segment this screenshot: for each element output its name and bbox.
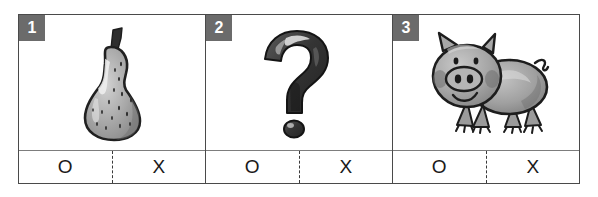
pear-illustration <box>19 15 205 150</box>
pig-illustration <box>393 15 579 150</box>
panel-2-answer-row: O X <box>206 150 392 183</box>
panel-1-option-circle[interactable]: O <box>19 151 112 183</box>
panel-3-option-cross[interactable]: X <box>486 151 580 183</box>
panel-1[interactable]: 1 <box>19 15 205 183</box>
panel-1-option-cross[interactable]: X <box>112 151 206 183</box>
panel-1-number-badge: 1 <box>19 15 45 41</box>
panel-2-figure-area: 2 <box>206 15 392 150</box>
panel-2[interactable]: 2 <box>205 15 392 183</box>
panel-3[interactable]: 3 <box>392 15 579 183</box>
panel-2-option-circle[interactable]: O <box>206 151 299 183</box>
panel-1-answer-row: O X <box>19 150 205 183</box>
panel-3-number-badge: 3 <box>393 15 419 41</box>
panel-2-number-badge: 2 <box>206 15 232 41</box>
panel-3-answer-row: O X <box>393 150 579 183</box>
panel-3-figure-area: 3 <box>393 15 579 150</box>
panel-2-option-cross[interactable]: X <box>299 151 393 183</box>
panel-3-option-circle[interactable]: O <box>393 151 486 183</box>
question-mark-illustration <box>206 15 392 150</box>
worksheet-frame: 1 <box>18 14 580 184</box>
panel-1-figure-area: 1 <box>19 15 205 150</box>
